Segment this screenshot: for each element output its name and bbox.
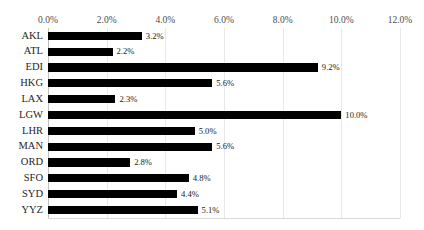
bar-value-label: 2.2% xyxy=(117,44,135,59)
bar xyxy=(48,206,198,214)
bar-value-label: 5.0% xyxy=(199,124,217,139)
bar-value-label: 10.0% xyxy=(345,108,367,123)
bar-chart: 0.0%2.0%4.0%6.0%8.0%10.0%12.0% AKL3.2%AT… xyxy=(0,0,424,230)
x-tick-label: 10.0% xyxy=(329,13,354,27)
x-tick-label: 12.0% xyxy=(388,13,413,27)
category-label: SFO xyxy=(24,171,43,186)
x-tick-label: 6.0% xyxy=(214,13,234,27)
category-label: LAX xyxy=(21,92,43,107)
x-axis-baseline xyxy=(48,218,400,219)
bar-row: AKL3.2% xyxy=(48,29,400,44)
bar-row: LGW10.0% xyxy=(48,108,400,123)
gridline xyxy=(400,28,401,218)
bar-row: SFO4.8% xyxy=(48,171,400,186)
bar xyxy=(48,127,195,135)
x-tick-label: 8.0% xyxy=(273,13,293,27)
x-axis-tick-labels: 0.0%2.0%4.0%6.0%8.0%10.0%12.0% xyxy=(0,13,424,27)
bar xyxy=(48,32,142,40)
bar xyxy=(48,174,189,182)
bar xyxy=(48,190,177,198)
x-tick-label: 0.0% xyxy=(38,13,58,27)
bar-value-label: 3.2% xyxy=(146,29,164,44)
x-tick-label: 4.0% xyxy=(155,13,175,27)
category-label: SYD xyxy=(22,187,43,202)
bar-row: YYZ5.1% xyxy=(48,203,400,218)
category-label: LGW xyxy=(19,108,43,123)
bar-value-label: 2.3% xyxy=(119,92,137,107)
bar-value-label: 4.4% xyxy=(181,187,199,202)
bar-row: LHR5.0% xyxy=(48,124,400,139)
bar-value-label: 5.6% xyxy=(216,139,234,154)
category-label: LHR xyxy=(22,124,43,139)
category-label: MAN xyxy=(18,139,43,154)
bar-value-label: 5.1% xyxy=(202,203,220,218)
bar xyxy=(48,79,212,87)
bar xyxy=(48,158,130,166)
bar-row: SYD4.4% xyxy=(48,187,400,202)
category-label: AKL xyxy=(21,29,43,44)
x-tick-label: 2.0% xyxy=(97,13,117,27)
bar-row: MAN5.6% xyxy=(48,139,400,154)
bar-value-label: 9.2% xyxy=(322,60,340,75)
bar xyxy=(48,48,113,56)
bar xyxy=(48,143,212,151)
category-label: YYZ xyxy=(21,203,43,218)
plot-area: AKL3.2%ATL2.2%EDI9.2%HKG5.6%LAX2.3%LGW10… xyxy=(48,28,400,218)
bar-row: EDI9.2% xyxy=(48,60,400,75)
bar-row: HKG5.6% xyxy=(48,76,400,91)
bar xyxy=(48,111,341,119)
bar xyxy=(48,63,318,71)
category-label: EDI xyxy=(26,60,44,75)
category-label: ORD xyxy=(21,155,43,170)
bar-value-label: 2.8% xyxy=(134,155,152,170)
bar-row: ATL2.2% xyxy=(48,44,400,59)
bar-value-label: 5.6% xyxy=(216,76,234,91)
category-label: ATL xyxy=(24,44,43,59)
bar-row: ORD2.8% xyxy=(48,155,400,170)
bar-value-label: 4.8% xyxy=(193,171,211,186)
category-label: HKG xyxy=(20,76,43,91)
bar xyxy=(48,95,115,103)
bar-row: LAX2.3% xyxy=(48,92,400,107)
